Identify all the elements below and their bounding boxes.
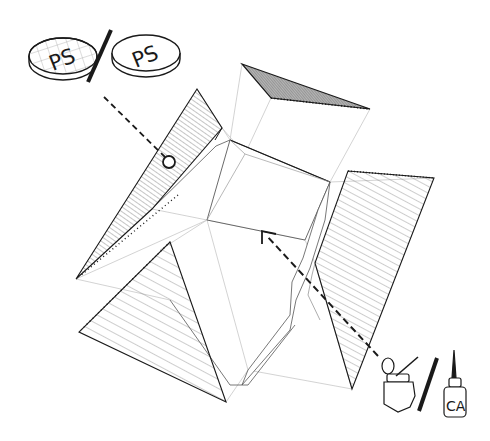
solvent-glue-bottle-icon	[382, 357, 418, 412]
diagram-canvas: PS PS CA	[0, 0, 490, 441]
ps-gridded-sheet-icon: PS	[29, 38, 97, 80]
ca-glue-bottle-icon: CA	[444, 350, 466, 417]
adhesive-separator	[419, 358, 437, 411]
material-callout	[104, 97, 175, 168]
adhesive-legend: CA	[382, 350, 466, 417]
callout-target-circle	[163, 156, 175, 168]
assembly-diagram: PS PS CA	[0, 0, 490, 441]
ca-label: CA	[446, 398, 466, 414]
ps-plain-sheet-icon: PS	[112, 35, 180, 77]
arrow-head-icon	[262, 231, 276, 244]
core-box-top-face	[207, 140, 330, 240]
top-panel	[242, 64, 370, 109]
material-legend: PS PS	[29, 30, 180, 82]
left-panel	[76, 89, 222, 279]
front-panel	[79, 242, 226, 402]
